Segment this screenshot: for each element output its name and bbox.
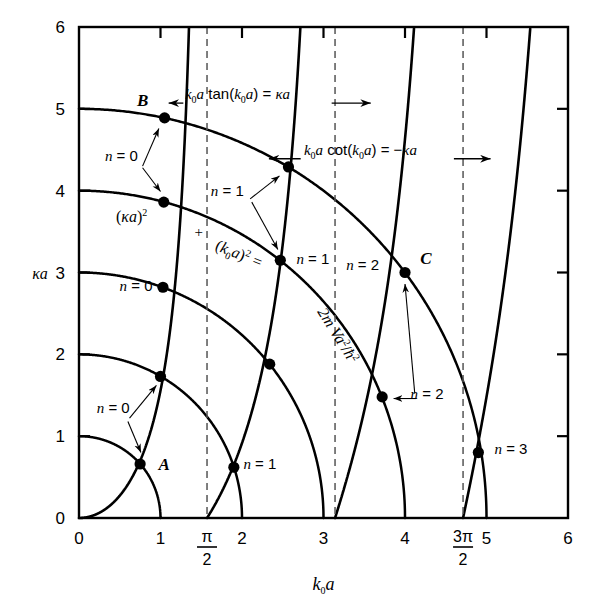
y-tick-label-4: 4 <box>56 182 65 201</box>
cot-equation-label: k0a cot(k0a) = −κa <box>304 141 417 161</box>
circle-equation-part1: (κa)2 <box>116 207 147 226</box>
y-tick-label-5: 5 <box>56 100 65 119</box>
leader-n2-to-C <box>405 284 415 394</box>
n-label-0-mid: n = 0 <box>120 277 153 294</box>
intersection-point-n8 <box>283 161 294 172</box>
y-tick-label-0: 0 <box>56 509 65 528</box>
n-label-2-upper: n = 2 <box>346 256 379 273</box>
n-label-2-lower: n = 2 <box>411 385 444 402</box>
circle-equation-part2: (k0a)2 = <box>212 236 265 274</box>
y-tick-label-3: 3 <box>56 264 65 283</box>
circle-arc-r5 <box>79 109 487 518</box>
x-tick-label-num-π/2: π <box>201 528 212 545</box>
x-tick-label-4: 4 <box>400 529 409 548</box>
n-label-0-lower: n = 0 <box>97 399 130 416</box>
leader-n0-to-B <box>143 128 159 166</box>
x-tick-label-num-3π/2: 3π <box>453 528 473 545</box>
intersection-point-C <box>399 267 410 278</box>
intersection-point-n2 <box>157 282 168 293</box>
circle-arc-r3 <box>79 273 324 519</box>
figure-container: 012345601π22343π256κak0aABCk0a tan(k0a) … <box>0 0 590 612</box>
n-label-1-upper: n = 1 <box>211 182 244 199</box>
intersection-point-A <box>135 458 146 469</box>
intersection-point-n3 <box>158 197 169 208</box>
n-label-3: n = 3 <box>494 440 527 457</box>
transcendental-plot: 012345601π22343π256κak0aABCk0a tan(k0a) … <box>0 0 590 612</box>
leader-n1-to-r5 <box>250 176 279 199</box>
x-tick-label-2: 2 <box>237 529 246 548</box>
x-tick-label-0: 0 <box>74 529 83 548</box>
intersection-point-n6 <box>264 359 275 370</box>
x-tick-label-den-π/2: 2 <box>203 551 212 568</box>
point-label-A: A <box>157 455 169 474</box>
x-tick-label-den-3π/2: 2 <box>459 551 468 568</box>
intersection-point-n7 <box>275 255 286 266</box>
x-axis-title: k0a <box>313 574 335 596</box>
x-tick-label-1: 1 <box>156 529 165 548</box>
intersection-point-n1 <box>155 371 166 382</box>
leader-n0-to-r2 <box>130 385 157 418</box>
intersection-point-n11 <box>473 447 484 458</box>
n-label-0-upper: n = 0 <box>105 147 138 164</box>
x-tick-label-6: 6 <box>563 529 572 548</box>
x-tick-label-3: 3 <box>319 529 328 548</box>
point-label-B: B <box>136 91 148 110</box>
intersection-point-n5 <box>228 462 239 473</box>
y-tick-label-2: 2 <box>56 345 65 364</box>
circle-arc-r1 <box>79 436 161 518</box>
leader-n0-to-r4 <box>143 168 161 192</box>
tan-equation-label: k0a tan(k0a) = κa <box>185 85 290 105</box>
n-label-1-lower: n = 1 <box>243 455 276 472</box>
n-label-1-mid: n = 1 <box>296 250 329 267</box>
x-tick-label-5: 5 <box>482 529 491 548</box>
y-tick-label-1: 1 <box>56 427 65 446</box>
leader-n0-to-A <box>128 421 141 452</box>
circle-equation-part3: 2m Va2/ħ2 <box>314 304 362 366</box>
circle-equation-plus: + <box>195 224 203 240</box>
y-tick-label-6: 6 <box>56 18 65 37</box>
point-label-C: C <box>420 249 432 268</box>
intersection-point-n9 <box>377 391 388 402</box>
y-axis-title: κa <box>32 265 48 282</box>
intersection-point-B <box>159 112 170 123</box>
